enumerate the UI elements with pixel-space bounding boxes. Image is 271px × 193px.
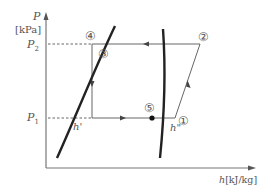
condensation-arrow-icon <box>143 42 149 47</box>
h-prime-label: h' <box>73 121 82 132</box>
saturated-liquid-curve <box>57 26 115 158</box>
y-axis-unit: [kPa] <box>15 24 41 35</box>
ph-diagram: P [kPa] h[kJ/kg] P2 P1 ④ ③ <box>0 0 271 193</box>
y-axis-arrow-icon <box>44 12 49 20</box>
point-5-label: ⑤ <box>144 101 155 115</box>
p1-label: P1 <box>26 111 39 126</box>
x-axis-label: h[kJ/kg] <box>219 174 257 185</box>
point-5-dot <box>149 115 154 120</box>
evaporation-arrow-icon <box>120 116 126 121</box>
point-3-label: ③ <box>98 47 109 61</box>
point-4-label: ④ <box>85 29 96 43</box>
h-double-prime-label: h" <box>170 122 181 133</box>
saturated-vapor-curve <box>160 29 164 158</box>
p2-label: P2 <box>26 38 39 53</box>
point-2-label: ② <box>198 30 209 44</box>
compression-arrow-icon <box>186 80 191 88</box>
y-axis-symbol: P <box>32 10 41 23</box>
x-axis-arrow-icon <box>248 166 256 171</box>
axes <box>44 12 257 171</box>
